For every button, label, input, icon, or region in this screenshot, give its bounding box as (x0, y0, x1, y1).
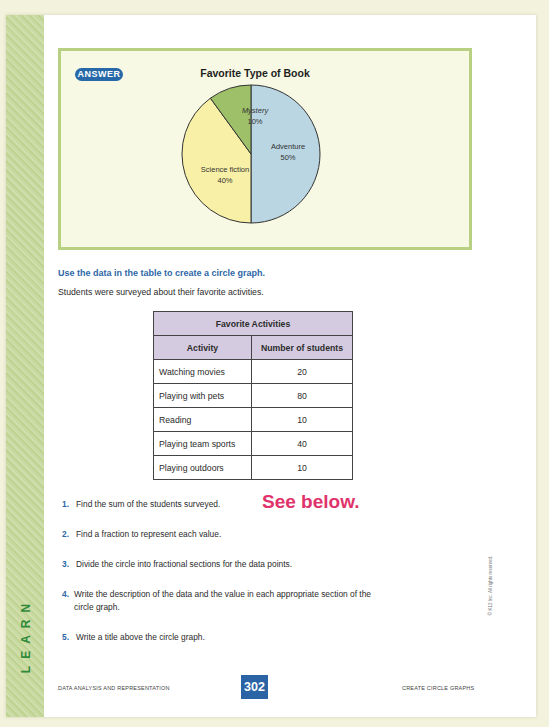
column-header-students: Number of students (252, 336, 353, 360)
page-number: 302 (241, 675, 268, 699)
see-below-annotation: See below. (262, 491, 360, 513)
cell-count: 10 (252, 408, 353, 432)
step-text: Find a fraction to represent each value. (76, 528, 221, 541)
step-number: 5. (62, 631, 76, 644)
chart-title: Favorite Type of Book (190, 67, 320, 79)
cell-activity: Reading (154, 408, 252, 432)
section-label: LEARN (12, 575, 40, 695)
cell-activity: Watching movies (154, 360, 252, 384)
table-row: Watching movies 20 (154, 360, 353, 384)
step-text: Find the sum of the students surveyed. (76, 498, 220, 511)
table-row: Playing team sports 40 (154, 432, 353, 456)
footer-lesson-title: CREATE CIRCLE GRAPHS (402, 685, 474, 691)
pie-label-mystery: Mystery 10% (230, 105, 280, 127)
pie-label-adventure: Adventure 50% (258, 141, 318, 163)
table-row: Playing with pets 80 (154, 384, 353, 408)
step-number: 1. (62, 498, 76, 511)
pie-label-science-fiction: Science fiction 40% (190, 164, 260, 186)
column-header-activity: Activity (154, 336, 252, 360)
favorite-activities-table: Favorite Activities Activity Number of s… (153, 311, 353, 480)
step-number: 3. (62, 558, 76, 571)
instructions-title: Use the data in the table to create a ci… (58, 268, 265, 278)
step-1: 1. Find the sum of the students surveyed… (62, 498, 220, 511)
step-5: 5. Write a title above the circle graph. (62, 631, 205, 644)
section-label-text: LEARN (19, 597, 33, 673)
step-text: Divide the circle into fractional sectio… (76, 558, 292, 571)
copyright-text: © K12 Inc. All rights reserved. (489, 555, 494, 614)
step-2: 2. Find a fraction to represent each val… (62, 528, 221, 541)
cell-activity: Playing with pets (154, 384, 252, 408)
table-row: Playing outdoors 10 (154, 456, 353, 480)
cell-count: 40 (252, 432, 353, 456)
step-number: 4. (62, 588, 74, 614)
copyright-notice: © K12 Inc. All rights reserved. (486, 540, 496, 630)
cell-activity: Playing team sports (154, 432, 252, 456)
table-title: Favorite Activities (154, 312, 353, 336)
step-text: Write the description of the data and th… (74, 588, 372, 614)
cell-count: 80 (252, 384, 353, 408)
cell-activity: Playing outdoors (154, 456, 252, 480)
footer-unit-title: DATA ANALYSIS AND REPRESENTATION (58, 685, 170, 691)
step-4: 4. Write the description of the data and… (62, 588, 372, 614)
table-row: Reading 10 (154, 408, 353, 432)
step-text: Write a title above the circle graph. (76, 631, 205, 644)
cell-count: 20 (252, 360, 353, 384)
step-3: 3. Divide the circle into fractional sec… (62, 558, 292, 571)
instructions-subtitle: Students were surveyed about their favor… (58, 287, 264, 297)
cell-count: 10 (252, 456, 353, 480)
step-number: 2. (62, 528, 76, 541)
answer-badge: ANSWER (75, 68, 123, 81)
